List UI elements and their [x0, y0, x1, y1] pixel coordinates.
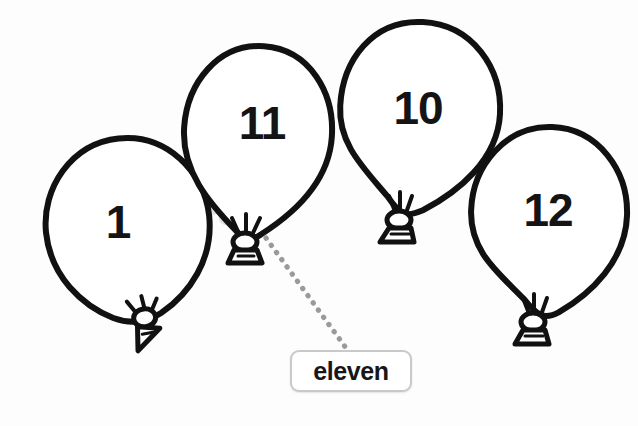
balloon-11-number: 11 [239, 97, 286, 149]
balloon-1-number: 1 [106, 196, 131, 248]
answer-label-text: eleven [313, 359, 388, 384]
balloon-12-number: 12 [523, 184, 572, 236]
balloon-12-knot-icon [515, 294, 549, 344]
worksheet-canvas: 1 11 10 [0, 0, 638, 426]
balloon-10-number: 10 [393, 82, 442, 134]
balloon-12[interactable]: 12 [468, 124, 631, 344]
dotted-connector[interactable] [266, 238, 346, 348]
balloon-11-knot-icon [228, 214, 262, 263]
answer-label-eleven[interactable]: eleven [290, 350, 412, 392]
